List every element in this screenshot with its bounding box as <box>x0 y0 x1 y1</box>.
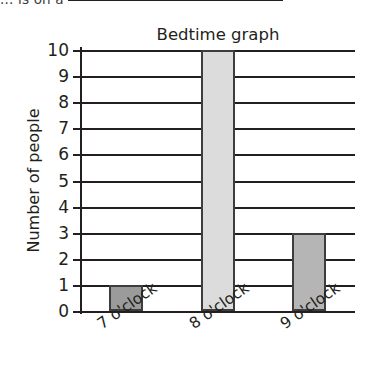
y-tick-label: 3 <box>58 224 69 241</box>
y-tick-label: 9 <box>58 68 69 85</box>
bedtime-bar-chart-figure: ... is on a Bedtime graph Number of peop… <box>0 0 366 384</box>
y-axis-title: Number of people <box>24 86 43 276</box>
plot-area: 109876543210 7 o'clock8 o'clock9 o'clock <box>80 50 355 311</box>
y-tick-label: 6 <box>58 146 69 163</box>
y-tick-label: 2 <box>58 250 69 267</box>
y-tick-label: 4 <box>58 198 69 215</box>
y-tick-label: 5 <box>58 172 69 189</box>
y-tick-label: 7 <box>58 120 69 137</box>
y-tick-label: 0 <box>58 303 69 320</box>
answer-rule <box>68 0 283 1</box>
y-tick-label: 8 <box>58 94 69 111</box>
cropped-top-text-label: ... is on a <box>0 0 64 4</box>
chart-title: Bedtime graph <box>80 25 356 44</box>
y-tick-label: 10 <box>47 42 69 59</box>
cropped-top-text: ... is on a <box>0 0 366 4</box>
y-tick-label: 1 <box>58 276 69 293</box>
bar <box>201 50 235 311</box>
